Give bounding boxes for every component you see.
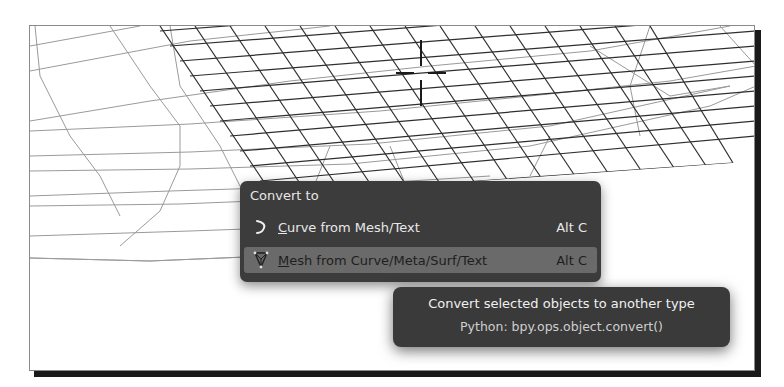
menu-item-label: Mesh from Curve/Meta/Surf/Text — [278, 253, 556, 268]
menu-item-curve-from-mesh[interactable]: Curve from Mesh/Text Alt C — [244, 214, 597, 240]
shortcut-label: Alt C — [556, 220, 587, 235]
operator-tooltip: Convert selected objects to another type… — [393, 287, 730, 347]
curve-icon — [250, 217, 272, 237]
mesh-icon — [250, 250, 272, 270]
menu-item-label: Curve from Mesh/Text — [278, 220, 556, 235]
tooltip-python-path: Python: bpy.ops.object.convert() — [393, 319, 730, 334]
tooltip-description: Convert selected objects to another type — [393, 296, 730, 311]
menu-item-mesh-from-curve[interactable]: Mesh from Curve/Meta/Surf/Text Alt C — [244, 247, 597, 273]
convert-to-menu: Convert to Curve from Mesh/Text Alt C Me… — [240, 181, 601, 282]
shortcut-label: Alt C — [556, 253, 587, 268]
menu-title: Convert to — [250, 188, 319, 203]
